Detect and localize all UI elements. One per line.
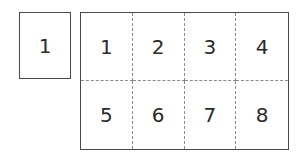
sheet-cell: 8 xyxy=(236,81,288,149)
sheet-cell: 1 xyxy=(81,13,133,81)
sheet-cell: 7 xyxy=(185,81,237,149)
imposition-sheet: 1 2 3 4 5 6 7 8 xyxy=(80,12,289,150)
cell-number: 3 xyxy=(204,35,217,59)
sheet-cell: 6 xyxy=(133,81,185,149)
cell-number: 2 xyxy=(152,35,165,59)
cell-number: 4 xyxy=(256,35,269,59)
cell-number: 6 xyxy=(152,103,165,127)
cell-number: 5 xyxy=(100,103,113,127)
sheet-cell: 3 xyxy=(185,13,237,81)
cell-number: 8 xyxy=(256,103,269,127)
sheet-cell: 2 xyxy=(133,13,185,81)
cell-number: 7 xyxy=(204,103,217,127)
single-page: 1 xyxy=(19,12,71,79)
sheet-cell: 4 xyxy=(236,13,288,81)
single-page-number: 1 xyxy=(39,34,52,58)
sheet-cell: 5 xyxy=(81,81,133,149)
cell-number: 1 xyxy=(100,35,113,59)
